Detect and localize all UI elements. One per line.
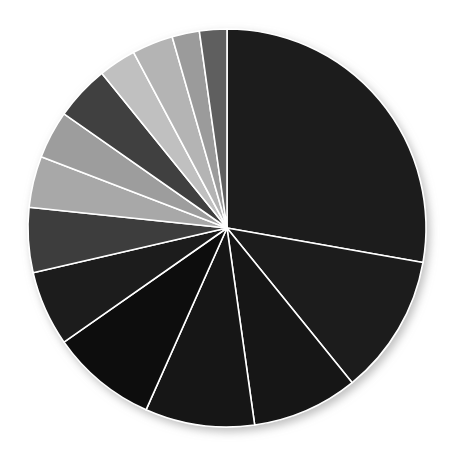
pie-slice-group [28,29,426,427]
pie-slice-1[interactable] [227,29,426,263]
pie-chart-svg [0,0,452,450]
pie-chart [0,0,452,450]
chart-canvas [0,0,452,450]
